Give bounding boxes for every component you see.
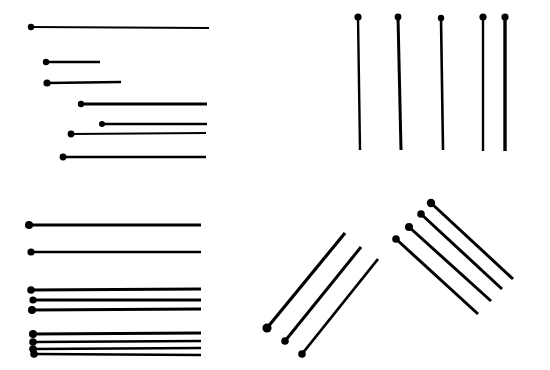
pin-head-dot [68,131,75,138]
pin-line [28,306,201,314]
pin-line [60,154,206,161]
pin-line [68,131,206,138]
panel-bottom-right [392,199,513,314]
pin-line [25,221,201,229]
pin-head-dot [60,154,67,161]
panel-top-left [28,24,209,161]
pin-head-dot [427,199,435,207]
figure-svg [0,0,550,370]
pin-line [427,199,513,279]
pin-head-dot [30,350,38,358]
pin-head-dot [29,296,36,303]
pin-shaft [33,341,201,342]
pin-head-dot [78,101,84,107]
pin-head-dot [395,14,402,21]
pin-shaft [34,354,201,355]
pin-line [392,235,478,314]
pin-head-dot [25,221,33,229]
pin-head-dot [501,13,508,20]
pin-head-dot [417,210,425,218]
pin-shaft [32,309,201,310]
pin-line [395,14,402,150]
panel-bottom-left [25,221,201,358]
pin-shaft [31,27,209,28]
pin-line [27,286,201,294]
pin-shaft [421,214,502,289]
pin-head-dot [27,286,35,294]
pin-line-figure [0,0,550,370]
pin-shaft [71,133,206,134]
pin-shaft [398,17,401,150]
pin-shaft [31,289,201,290]
pin-line [479,13,486,151]
pin-line [43,59,100,65]
pin-head-dot [405,223,413,231]
pin-line [417,210,502,289]
pin-head-dot [262,323,271,332]
pin-line [99,121,207,127]
pin-line [405,223,491,301]
pin-head-dot [43,59,49,65]
pin-line [30,350,201,358]
pin-head-dot [281,337,289,345]
pin-line [501,13,508,151]
pin-head-dot [43,79,50,86]
pin-line [78,101,207,107]
pin-line [27,248,201,255]
pin-line [43,79,121,86]
pin-head-dot [99,121,105,127]
pin-shaft [431,203,513,279]
pin-head-dot [29,330,37,338]
pin-head-dot [354,13,361,20]
pin-head-dot [479,13,486,20]
pin-head-dot [28,306,36,314]
pin-shaft [358,17,360,150]
pin-line [28,24,209,30]
pin-line [29,330,201,338]
pin-shaft [33,333,201,334]
pin-head-dot [27,248,34,255]
pin-line [29,338,201,346]
pin-line [29,345,201,353]
pin-shaft [441,18,443,150]
pin-shaft [47,82,121,83]
pin-head-dot [392,235,400,243]
panel-top-right [354,13,508,151]
pin-head-dot [298,350,306,358]
pin-head-dot [28,24,34,30]
pin-shaft [33,348,201,349]
pin-head-dot [29,338,37,346]
pin-line [438,15,444,150]
pin-head-dot [438,15,444,21]
panel-bottom-middle [262,233,378,358]
pin-line [29,296,201,303]
pin-line [354,13,361,150]
